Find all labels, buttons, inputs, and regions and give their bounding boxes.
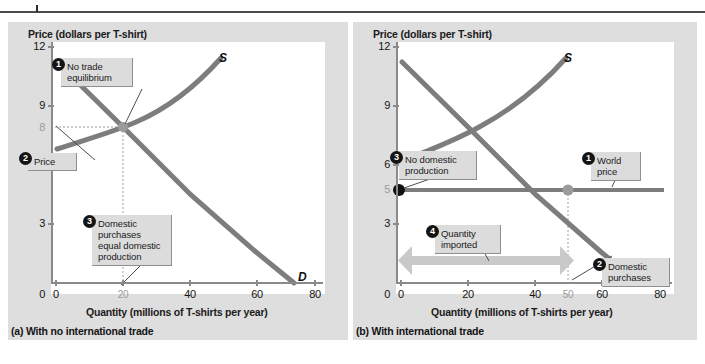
panel-b-xlabel-50: 50	[553, 289, 583, 300]
panel-b-bullet-3: 3	[390, 151, 403, 164]
panel-b-ylabel-12: 12	[364, 40, 390, 52]
panel-b-xtick-40	[534, 280, 536, 286]
panel-a-bullet-1: 1	[52, 58, 65, 71]
panel-b-xlabel-80: 80	[645, 288, 675, 300]
panel-a-xtick-20	[122, 280, 124, 286]
panel-a-equilibrium-point	[118, 122, 128, 132]
panel-b-xtick-0	[400, 280, 402, 286]
panel-b-bullet-4: 4	[426, 225, 439, 238]
panel-b-callout-world-price: World price	[591, 152, 641, 181]
panel-b-callout-domestic-purchases: Domestic purchases	[602, 258, 670, 287]
panel-a-ytick-9	[48, 105, 54, 107]
panel-b-ytick-3	[393, 223, 399, 225]
panel-a-bullet-2: 2	[19, 152, 32, 165]
panel-b-no-domestic-production-point	[393, 184, 405, 196]
panel-a-bullet-3: 3	[83, 215, 96, 228]
panel-b-supply-label: S	[564, 51, 572, 65]
panel-b-ylabel-3: 3	[364, 217, 390, 229]
panel-a-xtick-0	[55, 280, 57, 286]
panel-a-callout-price: Price	[28, 153, 77, 171]
panel-b-xlabel-40: 40	[520, 288, 550, 300]
panel-a-callout-domestic-purchases: Domestic purchases equal domestic produc…	[92, 215, 172, 266]
panel-b-bullet-1: 1	[582, 152, 595, 165]
panel-b: Price (dollars per T-shirt)	[353, 22, 697, 340]
panel-a-ylabel-12: 12	[19, 40, 45, 52]
header-tick-mark	[36, 5, 38, 12]
panel-b-callout-no-domestic-production: No domestic production	[399, 151, 477, 180]
panel-b-callout-quantity-imported: Quantity imported	[435, 225, 501, 254]
panel-a-x-axis-title: Quantity (millions of T-shirts per year)	[86, 306, 268, 318]
panel-b-xlabel-20: 20	[453, 288, 483, 300]
panel-a-supply-label: S	[219, 51, 227, 65]
panel-b-domestic-purchases-point	[563, 185, 574, 196]
panel-a-caption: (a) With no international trade	[11, 325, 153, 337]
panel-a-xlabel-80: 80	[300, 288, 330, 300]
header-rule	[0, 11, 705, 13]
panel-a-ylabel-9: 9	[19, 99, 45, 111]
panel-b-bullet-2: 2	[593, 258, 606, 271]
panel-a-demand-label: D	[298, 270, 307, 284]
panel-b-x-axis-title: Quantity (millions of T-shirts per year)	[431, 306, 613, 318]
panel-b-xlabel-0: 0	[386, 288, 416, 300]
panel-a-xtick-60	[256, 280, 258, 286]
panel-b-xlabel-60: 60	[587, 288, 617, 300]
panel-a-ytick-3	[48, 223, 54, 225]
panel-b-ylabel-9: 9	[364, 99, 390, 111]
panel-a-xlabel-40: 40	[175, 288, 205, 300]
panel-a-xlabel-20: 20	[108, 289, 138, 300]
panel-a: Price (dollars per T-shirt)	[8, 22, 348, 340]
panel-b-ylabel-5: 5	[364, 183, 390, 195]
panel-b-y-axis-title: Price (dollars per T-shirt)	[373, 28, 492, 40]
panel-b-ytick-9	[393, 105, 399, 107]
panel-b-xtick-20	[467, 280, 469, 286]
panel-a-callout-no-trade-equilibrium: No trade equilibrium	[61, 58, 133, 87]
panel-a-xlabel-0: 0	[41, 288, 71, 300]
panel-a-ylabel-3: 3	[19, 217, 45, 229]
panel-a-xtick-40	[189, 280, 191, 286]
panel-a-xtick-80	[314, 280, 316, 286]
panel-a-ytick-12	[48, 46, 54, 48]
panel-b-ytick-12	[393, 46, 399, 48]
panel-a-y-axis-title: Price (dollars per T-shirt)	[28, 28, 147, 40]
panel-a-x-axis	[51, 282, 323, 284]
figure-page: Price (dollars per T-shirt)	[0, 0, 705, 364]
panel-b-ylabel-6: 6	[364, 158, 390, 170]
panel-b-caption: (b) With international trade	[356, 325, 484, 337]
panel-a-ylabel-8: 8	[19, 121, 45, 133]
panel-a-xlabel-60: 60	[242, 288, 272, 300]
